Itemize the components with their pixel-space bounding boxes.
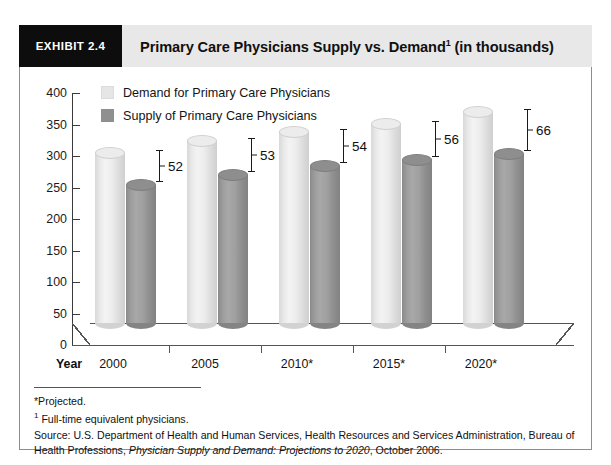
source-title: Physician Supply and Demand: Projections… [129,444,370,456]
cylinder-body [371,124,401,323]
cylinder-cap [310,160,340,172]
bar-demand-2005 [187,135,217,323]
gap-bracket-nub [159,165,165,166]
x-axis-labels: Year 200020052010*2015*2020* [19,357,592,377]
cylinder-body [95,153,125,323]
cylinder-cap [218,169,248,181]
x-label-2005: 2005 [191,357,219,371]
x-label-2015: 2015* [373,357,405,371]
x-tick-mark [261,345,262,353]
footnote-fte: 1 Full-time equivalent physicians. [34,409,579,426]
source-suffix: , October 2006. [370,444,443,456]
gap-bracket-cap-top [156,150,163,151]
floor-front-edge [72,345,574,346]
cylinder-body [187,141,217,323]
x-label-2010: 2010* [281,357,313,371]
title-tail: (in thousands) [451,38,554,54]
legend-swatch-supply-icon [101,109,114,122]
gap-value-label: 66 [536,123,551,138]
floor-left-diagonal [72,323,90,345]
cylinder-body [463,112,493,323]
legend-item-demand: Demand for Primary Care Physicians [101,84,330,101]
footnote-projected: *Projected. [34,394,579,408]
gap-value-label: 56 [444,131,459,146]
gap-value-label: 53 [260,147,275,162]
gap-bracket-cap-top [432,121,439,122]
cylinder-cap [279,126,309,138]
y-tick-label: 50 [27,307,67,321]
cylinder-body [402,160,432,323]
y-tick-mark [72,219,80,220]
gap-value-label: 52 [168,158,183,173]
gap-bracket-nub [435,138,441,139]
gap-bracket-nub [251,154,257,155]
exhibit-title-bar: Primary Care Physicians Supply vs. Deman… [122,25,592,67]
cylinder-shape [463,106,493,323]
cylinder-body [310,166,340,323]
footnotes: *Projected. 1 Full-time equivalent physi… [34,387,579,458]
gap-bracket-cap-top [340,129,347,130]
cylinder-cap [95,147,125,159]
chart-plot-area: Demand for Primary Care Physicians Suppl… [19,67,592,385]
gap-bracket-nub [343,145,349,146]
gap-bracket-cap-top [524,109,531,110]
y-tick-mark [72,282,80,283]
x-label-2000: 2000 [99,357,127,371]
y-tick-mark [72,314,80,315]
cylinder-shape [126,179,156,323]
cylinder-shape [279,126,309,323]
y-tick-label: 100 [27,275,67,289]
bar-demand-2000 [95,147,125,323]
exhibit-number-tag: EXHIBIT 2.4 [19,25,122,67]
gap-bracket-cap-top [248,138,255,139]
gap-bracket-cap-bottom [432,156,439,157]
x-tick-mark [445,345,446,353]
cylinder-body [126,185,156,323]
gap-bracket-cap-bottom [156,181,163,182]
y-tick-mark [72,188,80,189]
y-tick-label: 400 [27,86,67,100]
legend-item-supply: Supply of Primary Care Physicians [101,107,330,124]
page-title: Primary Care Physicians Supply vs. Deman… [140,38,554,55]
cylinder-shape [371,118,401,323]
bar-supply-2010 [310,160,340,323]
legend-swatch-demand-icon [101,86,114,99]
legend-label-supply: Supply of Primary Care Physicians [123,109,317,123]
x-label-2020: 2020* [465,357,497,371]
bar-supply-2020 [494,148,524,323]
exhibit-page: EXHIBIT 2.4 Primary Care Physicians Supp… [0,0,611,465]
y-tick-label: 350 [27,118,67,132]
cylinder-body [494,154,524,323]
y-tick-mark [72,251,80,252]
cylinder-cap [494,148,524,160]
floor-right-diagonal [556,323,574,345]
cylinder-shape [402,154,432,323]
bar-supply-2005 [218,169,248,323]
footnote-fte-text: Full-time equivalent physicians. [38,413,188,425]
bar-supply-2000 [126,179,156,323]
title-main: Primary Care Physicians Supply vs. Deman… [140,38,446,54]
cylinder-shape [310,160,340,323]
cylinder-shape [95,147,125,323]
x-tick-mark [353,345,354,353]
bar-demand-2010 [279,126,309,323]
legend-label-demand: Demand for Primary Care Physicians [123,86,330,100]
bar-demand-2015 [371,118,401,323]
y-tick-mark [72,93,80,94]
cylinder-body [218,175,248,323]
x-tick-mark [169,345,170,353]
x-axis-title: Year [56,357,82,371]
cylinder-cap [402,154,432,166]
y-tick-mark [72,125,80,126]
y-tick-label: 250 [27,181,67,195]
footnote-rule [34,387,201,388]
gap-bracket-cap-bottom [248,171,255,172]
cylinder-shape [218,169,248,323]
gap-bracket-cap-bottom [524,150,531,151]
bar-supply-2015 [402,154,432,323]
y-tick-mark [72,156,80,157]
gap-bracket-cap-bottom [340,162,347,163]
footnote-source: Source: U.S. Department of Health and Hu… [34,428,579,457]
gap-value-label: 54 [352,138,367,153]
chart-legend: Demand for Primary Care Physicians Suppl… [101,84,330,130]
